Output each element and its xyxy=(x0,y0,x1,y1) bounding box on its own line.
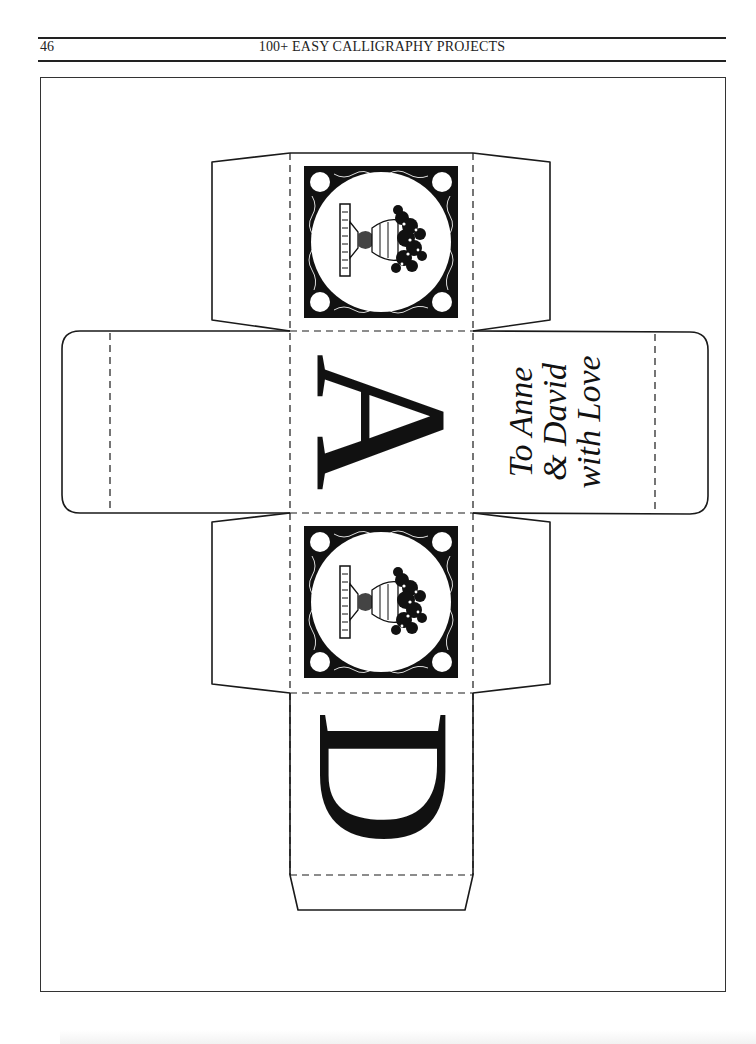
middle-band xyxy=(62,331,290,513)
bottom-medallion xyxy=(304,526,458,678)
box-template: A D To Anne & David with Love xyxy=(0,0,756,1044)
message-line-2: & David xyxy=(536,362,573,481)
top-left-flap xyxy=(212,153,290,331)
message-line-3: with Love xyxy=(570,355,607,488)
message-line-1: To Anne xyxy=(502,367,539,478)
svg-text:D: D xyxy=(279,709,489,846)
svg-text:A: A xyxy=(276,353,486,490)
page-edge-shadow xyxy=(60,1030,756,1044)
top-medallion xyxy=(304,166,458,318)
initial-letter-a: A xyxy=(276,353,486,490)
initial-letter-d: D xyxy=(279,709,489,846)
bottom-right-flap xyxy=(473,513,550,693)
top-right-flap xyxy=(473,153,550,331)
bottom-left-flap xyxy=(212,513,290,693)
calligraphy-message: To Anne & David with Love xyxy=(502,355,607,488)
